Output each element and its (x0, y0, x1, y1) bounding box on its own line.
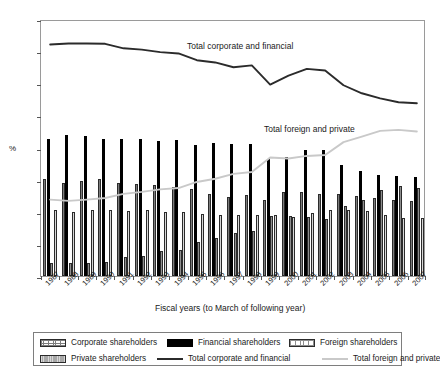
plot-inner: 01020304050607080 Total corporate and fi… (41, 21, 424, 276)
x-axis-title: Fiscal years (to March of following year… (155, 303, 305, 313)
legend-label: Foreign shareholders (320, 338, 397, 347)
chart-annotation: Total foreign and private (264, 124, 355, 134)
y-axis-title: % (9, 144, 16, 153)
legend-item: Corporate shareholders (40, 334, 157, 351)
legend-label: Corporate shareholders (71, 338, 157, 347)
legend-swatch-lineA (157, 358, 183, 360)
plot-area: 01020304050607080 Total corporate and fi… (40, 20, 425, 277)
legend-label: Total foreign and private (353, 354, 440, 363)
legend-swatch-fin (167, 339, 193, 347)
legend-row: Private shareholdersTotal corporate and … (34, 350, 401, 367)
legend-item: Foreign shareholders (289, 334, 397, 351)
legend-swatch-priv (40, 355, 66, 363)
legend-item: Private shareholders (40, 350, 146, 367)
chart-annotation: Total corporate and financial (187, 41, 293, 51)
line-total-corporate-and-financial (50, 43, 417, 103)
legend-item: Financial shareholders (167, 334, 280, 351)
legend-row: Corporate shareholdersFinancial sharehol… (34, 334, 401, 351)
line-total-foreign-and-private (50, 130, 417, 201)
legend-item: Total foreign and private (322, 350, 440, 367)
legend-swatch-forg (289, 339, 315, 347)
legend-item: Total corporate and financial (157, 350, 290, 367)
legend-swatch-corp (40, 339, 66, 347)
legend-label: Private shareholders (71, 354, 146, 363)
legend-label: Financial shareholders (198, 338, 280, 347)
line-series (41, 21, 426, 278)
chart-legend: Corporate shareholdersFinancial sharehol… (33, 332, 402, 366)
legend-swatch-lineB (322, 358, 348, 360)
legend-label: Total corporate and financial (188, 354, 290, 363)
